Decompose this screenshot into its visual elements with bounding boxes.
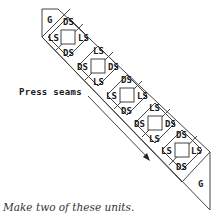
block-2-top: LS (93, 46, 104, 56)
block-4-top: LS (149, 103, 160, 113)
press-seams-label: Press seams (19, 87, 82, 97)
block-5-bottom: DS (176, 162, 187, 172)
block-4-bottom: LS (149, 134, 160, 144)
block-5-top: DS (176, 130, 187, 140)
caption: Make two of these units. (3, 201, 134, 213)
block-1-left: LS (48, 33, 59, 43)
center-square (61, 30, 75, 44)
block-5-right: LS (191, 146, 202, 156)
block-3-right: LS (137, 91, 148, 101)
center-square (91, 59, 105, 73)
block-3-top: DS (121, 75, 132, 85)
center-square (175, 143, 189, 157)
block-4-left: DS (134, 119, 145, 129)
strip-diagram: G G DS LS LS DS LS DS DS LS DS LS LS DS … (0, 0, 224, 220)
block-4-right: DS (165, 119, 176, 129)
block-2-bottom: LS (93, 77, 104, 87)
block-1-right: LS (78, 33, 89, 43)
corner-bottom-label: G (198, 179, 203, 189)
block-3-bottom: DS (121, 106, 132, 116)
block-2-left: DS (77, 62, 88, 72)
center-square (148, 116, 162, 130)
center-square (120, 88, 134, 102)
block-5-left: LS (161, 146, 172, 156)
corner-top-label: G (47, 15, 52, 25)
block-2-right: DS (108, 62, 119, 72)
block-3-left: LS (106, 91, 117, 101)
block-1-top: DS (63, 17, 74, 27)
block-1-bottom: DS (63, 48, 74, 58)
